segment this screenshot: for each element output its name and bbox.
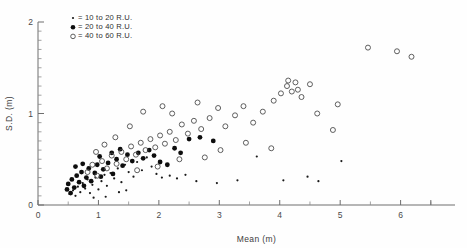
axes-group: 0123456012Mean (m)S.D. (m)	[4, 17, 455, 244]
data-point-open-circle	[114, 161, 119, 166]
data-point-filled-circle	[165, 162, 170, 167]
data-point-open-circle	[167, 129, 172, 134]
data-point-open-circle	[185, 131, 190, 136]
data-point-open-circle	[251, 120, 256, 125]
legend-label: = 10 to 20 R.U.	[78, 13, 132, 22]
data-point-open-circle	[135, 168, 140, 173]
data-point-open-circle	[202, 155, 207, 160]
data-point-filled-circle	[65, 187, 70, 192]
data-point-open-circle	[153, 145, 158, 150]
data-point-open-circle	[170, 111, 175, 116]
data-point-open-circle	[278, 91, 283, 96]
legend-marker-filled-circle	[71, 25, 76, 30]
data-point-small-dot	[79, 191, 81, 193]
x-tick-label: 0	[36, 210, 41, 220]
scatter-plot-figure: 0123456012Mean (m)S.D. (m) = 10 to 20 R.…	[0, 0, 467, 248]
y-tick-label: 1	[28, 109, 33, 119]
data-point-filled-circle	[84, 175, 89, 180]
data-point-small-dot	[151, 165, 153, 167]
data-point-filled-circle	[172, 146, 177, 151]
legend-marker-small-dot	[72, 17, 74, 19]
data-point-filled-circle	[73, 164, 78, 169]
data-point-small-dot	[105, 196, 107, 198]
data-point-open-circle	[199, 127, 204, 132]
data-point-small-dot	[146, 156, 148, 158]
data-points-group	[65, 45, 414, 199]
data-point-open-circle	[162, 141, 167, 146]
data-point-open-circle	[335, 102, 340, 107]
data-point-open-circle	[138, 140, 143, 145]
y-axis-title: S.D. (m)	[4, 96, 14, 131]
data-point-open-circle	[289, 89, 294, 94]
data-point-open-circle	[94, 149, 99, 154]
data-point-open-circle	[243, 140, 248, 145]
data-point-open-circle	[409, 54, 414, 59]
legend-label: = 40 to 60 R.U.	[78, 31, 132, 40]
data-point-filled-circle	[141, 156, 146, 161]
data-point-open-circle	[195, 100, 200, 105]
x-tick-label: 2	[157, 210, 162, 220]
data-point-open-circle	[127, 124, 132, 129]
plot-canvas: 0123456012Mean (m)S.D. (m) = 10 to 20 R.…	[0, 0, 467, 248]
legend-label: = 20 to 40 R.U.	[78, 22, 132, 31]
data-point-small-dot	[155, 173, 157, 175]
data-point-small-dot	[216, 182, 218, 184]
data-point-small-dot	[236, 179, 238, 181]
data-point-open-circle	[129, 144, 134, 149]
y-tick-label: 2	[28, 17, 33, 27]
data-point-small-dot	[77, 186, 79, 188]
data-point-small-dot	[169, 175, 171, 177]
data-point-open-circle	[207, 116, 212, 121]
data-point-open-circle	[284, 84, 289, 89]
data-point-small-dot	[106, 185, 108, 187]
data-point-open-circle	[223, 124, 228, 129]
data-point-filled-circle	[95, 162, 100, 167]
data-point-small-dot	[176, 177, 178, 179]
data-point-open-circle	[113, 135, 118, 140]
data-point-filled-circle	[211, 139, 216, 144]
data-point-small-dot	[306, 176, 308, 178]
data-point-small-dot	[132, 176, 134, 178]
data-point-filled-circle	[72, 185, 77, 190]
data-point-small-dot	[100, 180, 102, 182]
data-point-filled-circle	[82, 183, 87, 188]
data-point-small-dot	[256, 155, 258, 157]
data-point-filled-circle	[111, 171, 116, 176]
data-point-open-circle	[124, 157, 129, 162]
data-point-open-circle	[365, 45, 370, 50]
data-point-filled-circle	[130, 159, 135, 164]
y-tick-label: 0	[28, 200, 33, 210]
data-point-open-circle	[299, 95, 304, 100]
data-point-filled-circle	[120, 163, 125, 168]
data-point-open-circle	[293, 80, 298, 85]
data-point-filled-circle	[68, 191, 73, 196]
data-point-small-dot	[136, 161, 138, 163]
data-point-open-circle	[179, 122, 184, 127]
data-point-open-circle	[177, 157, 182, 162]
data-point-open-circle	[100, 159, 105, 164]
data-point-small-dot	[141, 169, 143, 171]
data-point-filled-circle	[80, 161, 85, 166]
data-point-small-dot	[161, 176, 163, 178]
data-point-open-circle	[315, 111, 320, 116]
data-point-filled-circle	[198, 135, 203, 140]
data-point-filled-circle	[187, 137, 192, 142]
data-point-open-circle	[102, 142, 107, 147]
data-point-small-dot	[340, 160, 342, 162]
data-point-small-dot	[113, 177, 115, 179]
x-tick-label: 5	[338, 210, 343, 220]
data-point-filled-circle	[69, 177, 74, 182]
legend-group: = 10 to 20 R.U.= 20 to 40 R.U.= 40 to 60…	[71, 13, 133, 40]
data-point-open-circle	[160, 104, 165, 109]
data-point-small-dot	[91, 184, 93, 186]
data-point-filled-circle	[89, 179, 94, 184]
data-point-small-dot	[317, 180, 319, 182]
data-point-small-dot	[184, 174, 186, 176]
data-point-filled-circle	[106, 161, 111, 166]
data-point-open-circle	[90, 162, 95, 167]
data-point-filled-circle	[79, 170, 84, 175]
data-point-open-circle	[286, 78, 291, 83]
series-3-points	[85, 45, 414, 178]
data-point-filled-circle	[97, 154, 102, 159]
data-point-small-dot	[93, 197, 95, 199]
